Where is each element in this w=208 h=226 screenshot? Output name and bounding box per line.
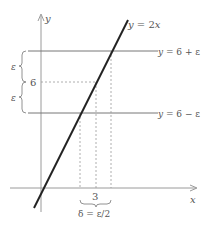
- x-axis-label: x: [190, 194, 196, 205]
- upper-bound-label: y = 6 + ε: [157, 47, 200, 57]
- eps-top-label: ε: [11, 62, 16, 72]
- x-axis: [10, 185, 197, 191]
- y-axis-label: y: [44, 13, 51, 24]
- eps-bottom-label: ε: [11, 93, 16, 103]
- line-label: y = 2x: [127, 19, 161, 30]
- delta-label: δ = ε/2: [78, 209, 110, 219]
- epsilon-delta-diagram: y x y = 2x y = 6 + ε y = 6 − ε 6 3 ε ε δ…: [0, 0, 208, 226]
- line-y-2x: [34, 20, 128, 208]
- eps-brace-bottom: [19, 82, 26, 113]
- three-label: 3: [92, 191, 98, 202]
- lower-bound-label: y = 6 − ε: [157, 109, 200, 119]
- diagram-svg: y x y = 2x y = 6 + ε y = 6 − ε 6 3 ε ε δ…: [0, 0, 208, 226]
- eps-brace-top: [19, 51, 26, 82]
- six-label: 6: [30, 77, 36, 88]
